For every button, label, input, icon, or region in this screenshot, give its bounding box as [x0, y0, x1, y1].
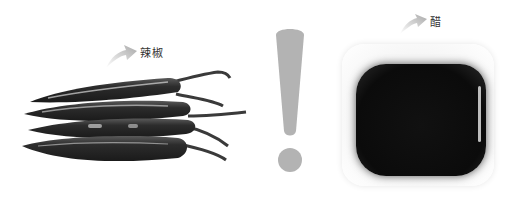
vinegar-liquid [356, 64, 486, 176]
exclamation-icon [272, 25, 308, 175]
vinegar-dish-image [340, 42, 498, 190]
arrow-icon [398, 10, 428, 36]
chili-peppers-image [18, 68, 258, 168]
vinegar-label: 醋 [430, 13, 442, 29]
liquid-highlight [478, 86, 481, 142]
arrow-icon [104, 40, 138, 70]
chili-label: 辣椒 [140, 44, 164, 60]
